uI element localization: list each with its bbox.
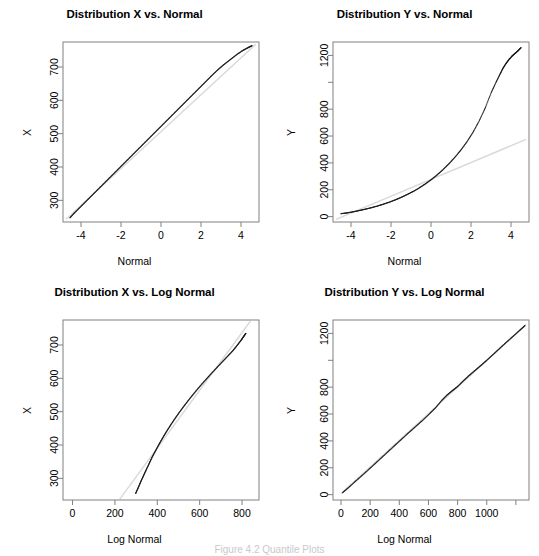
quantile-points [340,47,521,214]
x-tick-label: 400 [149,507,167,519]
x-tick-label: -2 [116,229,125,241]
plot-frame [63,320,259,500]
x-tick-label: 1000 [475,507,499,519]
x-tick-label: 0 [70,507,76,519]
panel-dist-x-vs-lognormal: Distribution X vs. Log Normal 0200400600… [0,278,269,556]
x-tick-label: 4 [508,229,514,241]
y-tick-label: 400 [318,432,330,450]
plot-frame [333,320,529,500]
y-tick-label: 800 [318,100,330,118]
y-tick-label: 300 [48,469,60,487]
x-tick-label: 800 [449,507,467,519]
plot-area: -4-202402004006008001200 [270,0,539,278]
x-tick-label: 0 [158,229,164,241]
y-tick-label: 600 [48,91,60,109]
y-tick-label: 1200 [318,322,330,346]
x-tick-label: -4 [76,229,85,241]
y-axis-label: Y [285,120,298,146]
y-tick-label: 300 [48,191,60,209]
y-tick-label: 600 [48,369,60,387]
plot-area: -4-2024300400500600700 [0,0,269,278]
y-tick-label: 0 [318,492,330,498]
y-tick-label: 700 [48,336,60,354]
plot-area: 0200400600800100002004006008001200 [270,278,539,556]
x-tick-label: 2 [468,229,474,241]
y-tick-label: 400 [48,158,60,176]
x-tick-label: 200 [106,507,124,519]
x-tick-label: 200 [361,507,379,519]
y-tick-label: 1200 [318,44,330,68]
x-tick-label: 4 [238,229,244,241]
x-tick-label: 0 [428,229,434,241]
x-tick-label: 600 [420,507,438,519]
x-tick-label: 400 [391,507,409,519]
plot-frame [333,42,529,222]
y-tick-label: 200 [318,459,330,477]
panel-dist-y-vs-lognormal: Distribution Y vs. Log Normal 0200400600… [270,278,539,556]
y-tick-label: 600 [318,127,330,145]
y-tick-label: 400 [318,154,330,172]
panel-dist-x-vs-normal: Distribution X vs. Normal -4-20243004005… [0,0,269,278]
y-tick-label: 0 [318,214,330,220]
quantile-points [342,325,526,493]
plot-area: 0200400600800300400500600700 [0,278,269,556]
y-axis-label: X [21,398,34,424]
figure-caption: Figure 4.2 Quantile Plots [0,544,539,555]
quantile-plot-figure: Distribution X vs. Normal -4-20243004005… [0,0,539,556]
y-tick-label: 800 [318,378,330,396]
x-tick-label: -4 [346,229,355,241]
x-axis-label: Normal [270,255,539,268]
x-axis-label: Normal [0,255,269,268]
y-axis-label: Y [285,398,298,424]
x-tick-label: 0 [338,507,344,519]
y-tick-label: 500 [48,403,60,421]
y-axis-label: X [21,120,34,146]
x-tick-label: 2 [198,229,204,241]
x-tick-label: -2 [386,229,395,241]
y-tick-label: 700 [48,58,60,76]
y-tick-label: 400 [48,436,60,454]
quantile-points [135,333,246,494]
y-tick-label: 600 [318,405,330,423]
panel-dist-y-vs-normal: Distribution Y vs. Normal -4-20240200400… [270,0,539,278]
y-tick-label: 500 [48,125,60,143]
x-tick-label: 800 [233,507,251,519]
reference-line [120,321,251,499]
x-tick-label: 600 [191,507,209,519]
y-tick-label: 200 [318,181,330,199]
